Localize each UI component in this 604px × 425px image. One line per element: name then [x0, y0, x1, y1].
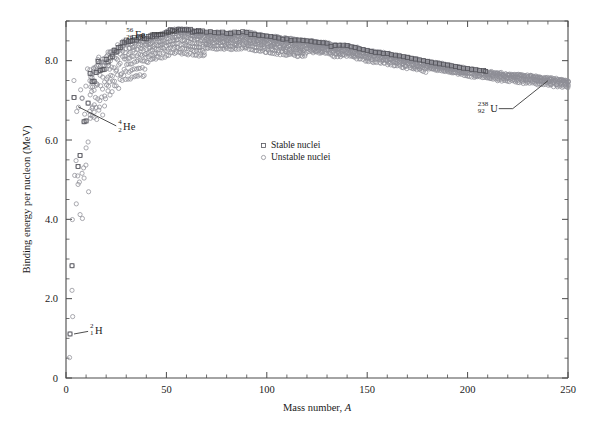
chart-svg: 02.04.06.08.0050100150200250Mass number,… [0, 0, 604, 425]
data-point-unstable [67, 355, 71, 359]
annotation-leader [74, 331, 88, 334]
data-point-unstable [71, 314, 75, 318]
data-point-unstable [142, 73, 146, 77]
legend-item: Unstable nuclei [261, 152, 330, 162]
data-point-unstable [83, 112, 87, 116]
annotation-leader [499, 81, 548, 109]
data-point-unstable [75, 109, 79, 113]
x-axis-title: Mass number, A [283, 402, 352, 413]
data-point-unstable [70, 264, 74, 268]
data-point-unstable [72, 78, 76, 82]
data-point-unstable [74, 159, 78, 163]
annotation-symbol: H [95, 325, 103, 336]
x-tick-label: 150 [359, 384, 375, 395]
y-axis-title: Binding energy per nucleon (MeV) [21, 125, 33, 273]
x-tick-label: 50 [161, 384, 172, 395]
annotation-helium-4: 42He [78, 107, 136, 134]
data-point-unstable [87, 190, 91, 194]
annotation-symbol: U [490, 103, 498, 114]
data-point-unstable [78, 212, 82, 216]
legend-label: Unstable nuclei [271, 152, 331, 162]
data-point-unstable [68, 332, 72, 336]
data-point-unstable [86, 140, 90, 144]
data-point-unstable [100, 87, 104, 91]
data-point-unstable [74, 202, 78, 206]
x-tick-label: 0 [63, 384, 68, 395]
annotation-atomic-number: 2 [118, 126, 122, 134]
data-point-unstable [84, 163, 88, 167]
legend-marker-square [262, 144, 266, 148]
data-point-unstable [110, 90, 114, 94]
x-tick-label: 200 [460, 384, 476, 395]
annotation-atomic-number: 1 [90, 329, 94, 337]
data-point-unstable [78, 153, 82, 157]
data-point-unstable [106, 89, 110, 93]
x-tick-label: 100 [259, 384, 275, 395]
legend-marker-circle [261, 155, 265, 159]
data-point-unstable [72, 95, 76, 99]
legend: Stable nucleiUnstable nuclei [261, 140, 330, 162]
data-point-unstable [101, 113, 105, 117]
y-tick-label: 6.0 [45, 135, 58, 146]
data-point-unstable [117, 86, 121, 90]
data-point-unstable [84, 84, 88, 88]
annotation-symbol: Fe [135, 29, 146, 40]
data-point-unstable [80, 216, 84, 220]
y-tick-label: 8.0 [45, 55, 58, 66]
data-point-unstable [108, 80, 112, 84]
data-point-unstable [103, 97, 107, 101]
data-point-unstable [84, 146, 88, 150]
data-points [67, 27, 570, 360]
data-point-unstable [86, 101, 90, 105]
y-tick-label: 4.0 [45, 214, 58, 225]
data-point-unstable [82, 166, 86, 170]
x-tick-label: 250 [560, 384, 576, 395]
annotation-atomic-number: 92 [478, 107, 486, 115]
data-point-unstable [103, 80, 107, 84]
data-point-unstable [79, 88, 83, 92]
legend-item: Stable nuclei [262, 140, 321, 150]
annotation-hydrogen-2: 21H [74, 322, 103, 337]
legend-label: Stable nuclei [271, 140, 321, 150]
annotation-atomic-number: 26 [126, 33, 133, 41]
data-point-unstable [76, 164, 80, 168]
data-point-unstable [76, 174, 80, 178]
data-point-unstable [102, 104, 106, 108]
data-point-unstable [70, 288, 74, 292]
y-tick-label: 0 [53, 373, 58, 384]
data-point-unstable [82, 176, 86, 180]
annotation-symbol: He [123, 121, 136, 132]
binding-energy-chart: 02.04.06.08.0050100150200250Mass number,… [0, 0, 604, 425]
y-tick-label: 2.0 [45, 293, 58, 304]
data-point-unstable [80, 171, 84, 175]
